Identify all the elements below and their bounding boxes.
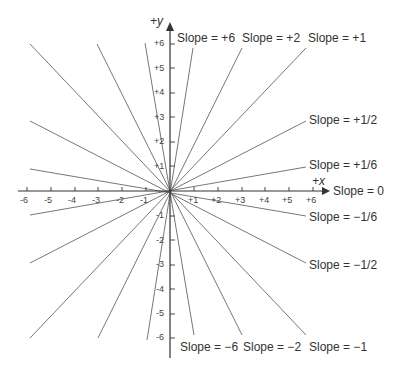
y-tick-label: +5: [154, 64, 164, 73]
x-tick-label: +6: [306, 196, 316, 205]
y-tick-label: +1: [154, 162, 164, 171]
label-slope-pos1: Slope = +1: [308, 32, 366, 44]
y-tick-label: -5: [156, 309, 164, 318]
label-slope-neg-sixth: Slope = −1/6: [309, 211, 377, 223]
y-tick-label: +2: [154, 137, 164, 146]
x-tick-label: -2: [116, 196, 124, 205]
x-tick-label: -4: [68, 196, 76, 205]
label-slope-pos6: Slope = +6: [177, 32, 235, 44]
y-tick-label: +3: [154, 113, 164, 122]
x-tick-label: +3: [235, 196, 245, 205]
label-slope-neg6: Slope = −6: [180, 341, 238, 353]
y-axis-arrow-icon: [166, 22, 174, 31]
x-tick-label: -5: [44, 196, 52, 205]
y-axis-label: +y: [150, 15, 163, 27]
x-tick-label: -6: [20, 196, 28, 205]
label-slope-zero: Slope = 0: [333, 185, 384, 197]
x-tick-label: +4: [259, 196, 269, 205]
label-slope-neg1: Slope = −1: [309, 341, 367, 353]
y-tick-label: +4: [154, 88, 164, 97]
y-tick-label: -1: [156, 211, 164, 220]
label-slope-pos-half: Slope = +1/2: [309, 114, 377, 126]
x-tick-label: -1: [140, 196, 148, 205]
x-axis-arrow-icon: [322, 187, 330, 195]
x-tick-label: +2: [211, 196, 221, 205]
y-tick-label: +6: [154, 39, 164, 48]
label-slope-pos2: Slope = +2: [242, 32, 300, 44]
y-tick-label: -3: [156, 260, 164, 269]
x-tick-label: -3: [92, 196, 100, 205]
y-tick-label: -6: [156, 333, 164, 342]
y-tick-label: -2: [156, 236, 164, 245]
y-tick-label: -4: [156, 285, 164, 294]
label-slope-pos-sixth: Slope = +1/6: [309, 159, 377, 171]
x-axis-label: +x: [312, 175, 325, 187]
x-tick-label: +1: [188, 196, 198, 205]
label-slope-neg-half: Slope = −1/2: [309, 259, 377, 271]
label-slope-neg2: Slope = −2: [243, 341, 301, 353]
x-tick-label: +5: [282, 196, 292, 205]
line-slope-pos1: [30, 48, 306, 338]
